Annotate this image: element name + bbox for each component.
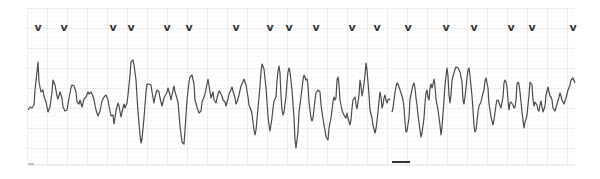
- beat-marker-icon: v: [34, 21, 42, 34]
- beat-marker-icon: v: [312, 21, 320, 34]
- beat-marker-icon: v: [507, 21, 515, 34]
- grid-paper-right: [391, 8, 575, 165]
- beat-marker-icon: v: [348, 21, 356, 34]
- beat-marker-icon: v: [185, 21, 193, 34]
- beat-marker-icon: v: [109, 21, 117, 34]
- beat-marker-icon: v: [266, 21, 274, 34]
- beat-marker-icon: v: [470, 21, 478, 34]
- beat-marker-icon: v: [163, 21, 171, 34]
- beat-marker-icon: v: [404, 21, 412, 34]
- beat-marker-icon: v: [442, 21, 450, 34]
- beat-marker-icon: v: [285, 21, 293, 34]
- grid-paper-left: [27, 8, 390, 165]
- ecg-strip: vvvvvvvvvvvvvvvvvv: [0, 0, 600, 179]
- beat-marker-icon: v: [127, 21, 135, 34]
- beat-marker-icon: v: [528, 21, 536, 34]
- beat-marker-icon: v: [232, 21, 240, 34]
- beat-marker-icon: v: [373, 21, 381, 34]
- beat-marker-icon: v: [60, 21, 68, 34]
- beat-marker-icon: v: [569, 21, 577, 34]
